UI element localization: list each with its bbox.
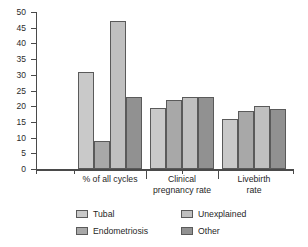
legend-swatch-icon [76, 227, 88, 235]
bar-endometriosis [94, 141, 110, 169]
chart-legend: TubalUnexplainedEndometriosisOther [76, 209, 286, 243]
legend-label: Tubal [93, 209, 114, 219]
bar-unexplained [182, 97, 198, 169]
y-tick-mark [31, 91, 36, 92]
category-label-livebirth-rate: Livebirth rate [199, 174, 308, 196]
y-tick-label: 35 [17, 55, 26, 64]
bar-group [150, 12, 214, 169]
y-tick-mark [31, 12, 36, 13]
legend-swatch-icon [181, 227, 193, 235]
plot-area [36, 12, 294, 170]
legend-item: Tubal [76, 209, 114, 219]
y-tick-mark [31, 106, 36, 107]
y-tick-label: 50 [17, 8, 26, 17]
y-tick-mark [31, 28, 36, 29]
bar-tubal [78, 72, 94, 169]
bar-other [198, 97, 214, 169]
y-tick-mark [31, 122, 36, 123]
y-tick-mark [31, 153, 36, 154]
y-tick-mark [31, 138, 36, 139]
y-axis-line [36, 12, 37, 170]
y-tick-label: 30 [17, 71, 26, 80]
y-tick-label: 45 [17, 23, 26, 32]
bar-chart-figure: 05101520253035404550 % of all cycles Cli… [0, 0, 308, 247]
bar-tubal [150, 108, 166, 169]
bar-endometriosis [166, 100, 182, 169]
legend-item: Endometriosis [76, 226, 148, 236]
legend-item: Other [181, 226, 220, 236]
bar-group [222, 12, 286, 169]
y-tick-label: 0 [21, 165, 26, 174]
y-tick-label: 15 [17, 118, 26, 127]
bar-unexplained [110, 21, 126, 169]
y-tick-label: 10 [17, 133, 26, 142]
bar-group [78, 12, 142, 169]
x-axis-category-labels: % of all cycles Clinical pregnancy rate … [36, 174, 294, 202]
y-tick-mark [31, 59, 36, 60]
bar-other [270, 109, 286, 169]
legend-swatch-icon [181, 210, 193, 218]
y-tick-label: 20 [17, 102, 26, 111]
legend-label: Endometriosis [93, 226, 148, 236]
y-tick-mark [31, 75, 36, 76]
bar-other [126, 97, 142, 169]
y-tick-label: 5 [21, 149, 26, 158]
bar-endometriosis [238, 111, 254, 169]
y-axis-labels: 05101520253035404550 [0, 12, 34, 170]
legend-swatch-icon [76, 210, 88, 218]
legend-label: Unexplained [198, 209, 246, 219]
y-tick-label: 40 [17, 39, 26, 48]
y-tick-mark [31, 43, 36, 44]
bar-tubal [222, 119, 238, 169]
legend-label: Other [198, 226, 220, 236]
legend-item: Unexplained [181, 209, 246, 219]
y-tick-label: 25 [17, 86, 26, 95]
bar-unexplained [254, 106, 270, 169]
